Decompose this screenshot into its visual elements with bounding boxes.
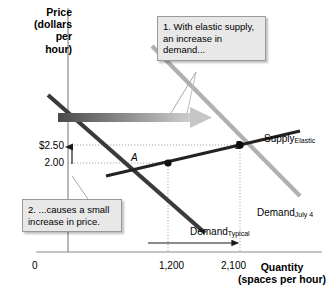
y-tick-label-250: $2.50 [12,140,64,151]
y-tick-label-200: 2.00 [12,157,64,168]
curve-label-demand-typical: DemandTypical [190,226,250,237]
x-axis-title: Quantity (spaces per hour) [236,262,328,285]
callout-small-price-increase: 2. ...causes a small increase in price. [22,199,122,232]
demand-july4-label-text: Demand [257,207,295,218]
callout-2-leader [72,176,88,199]
demand-typical-label-subscript: Typical [228,230,250,237]
x-tick-label-1200: 1,200 [159,260,184,271]
point-a-marker [164,159,171,166]
supply-label-subscript: Elastic [295,137,316,144]
demand-july4-label-subscript: July 4 [295,211,313,218]
demand-typical-label-text: Demand [190,226,228,237]
y-axis-title: Price (dollars per hour) [0,6,72,55]
supply-label-text: Supply [264,133,295,144]
callout-elastic-supply: 1. With elastic supply, an increase in d… [157,16,266,61]
curve-label-demand-july4: DemandJuly 4 [257,207,313,218]
x-tick-label-2100: 2,100 [221,260,246,271]
point-a-label: A [131,152,138,163]
point-b-label: B [235,140,242,151]
chart-figure: Price (dollars per hour) Quantity (space… [0,0,329,286]
curve-label-supply-elastic: SupplyElastic [264,133,315,144]
x-tick-label-origin: 0 [32,260,38,271]
